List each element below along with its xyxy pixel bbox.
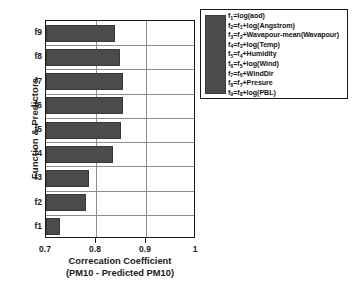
bar-f5 (46, 122, 121, 139)
y-tick-label-f1: f1 (16, 221, 42, 231)
legend-entry-f8: f8=f7+Presure (228, 79, 346, 89)
x-tick-mark-0.9 (145, 238, 146, 243)
x-tick-label-1: 1 (193, 244, 198, 254)
legend-entry-f9: f9=f8+log(PBL) (228, 89, 346, 99)
x-tick-label-0.8: 0.8 (89, 244, 101, 254)
x-axis-title: Correcation Coefficient (PM10 - Predicte… (20, 256, 220, 279)
y-tick-label-f7: f7 (16, 76, 42, 86)
bar-chart-figure: Function & Predictors f1f2f3f4f5f6f7f8f9… (0, 0, 352, 293)
plot-area (45, 20, 195, 238)
bar-f2 (46, 194, 86, 211)
y-tick-label-f2: f2 (16, 197, 42, 207)
y-tick-label-f8: f8 (16, 51, 42, 61)
gridline-x-0.9 (146, 21, 147, 237)
y-axis-tick-labels: f1f2f3f4f5f6f7f8f9 (14, 20, 42, 238)
bar-f6 (46, 97, 123, 114)
x-axis-tick-labels: 0.70.80.91 (45, 244, 195, 256)
bar-f9 (46, 25, 115, 42)
x-tick-label-0.7: 0.7 (39, 244, 51, 254)
legend-entry-f2: f2=f1+log(Angstrom) (228, 22, 346, 32)
legend-entry-f3: f3=f2+Wavapour-mean(Wavapour) (228, 31, 346, 41)
gridline-y (46, 45, 194, 46)
y-tick-label-f3: f3 (16, 172, 42, 182)
legend-color-swatch (205, 15, 226, 94)
bar-f1 (46, 218, 60, 235)
x-axis-title-line-2: (PM10 - Predicted PM10) (20, 268, 220, 280)
y-tick-label-f5: f5 (16, 124, 42, 134)
legend-entry-f4: f4=f3+log(Temp) (228, 41, 346, 51)
legend-entry-f1: f1=log(aod) (228, 12, 346, 22)
gridline-y (46, 94, 194, 95)
legend-box: f1=log(aod)f2=f1+log(Angstrom)f3=f2+Wava… (200, 9, 348, 99)
gridline-y (46, 166, 194, 167)
gridline-y (46, 142, 194, 143)
x-tick-mark-0.8 (95, 238, 96, 243)
x-axis-title-line-1: Correcation Coefficient (20, 256, 220, 268)
bar-f3 (46, 170, 89, 187)
bar-f7 (46, 73, 123, 90)
gridline-y (46, 69, 194, 70)
gridline-y (46, 118, 194, 119)
legend-entry-list: f1=log(aod)f2=f1+log(Angstrom)f3=f2+Wava… (228, 12, 346, 98)
y-tick-label-f9: f9 (16, 27, 42, 37)
x-tick-label-0.9: 0.9 (139, 244, 151, 254)
bar-f4 (46, 146, 113, 163)
bar-f8 (46, 49, 120, 66)
y-tick-label-f6: f6 (16, 100, 42, 110)
legend-entry-f6: f6=f5+log(Wind) (228, 60, 346, 70)
y-tick-label-f4: f4 (16, 148, 42, 158)
legend-entry-f5: f5=f4+Humidity (228, 50, 346, 60)
legend-entry-f7: f7=f6+WindDir (228, 70, 346, 80)
gridline-y (46, 191, 194, 192)
gridline-y (46, 215, 194, 216)
